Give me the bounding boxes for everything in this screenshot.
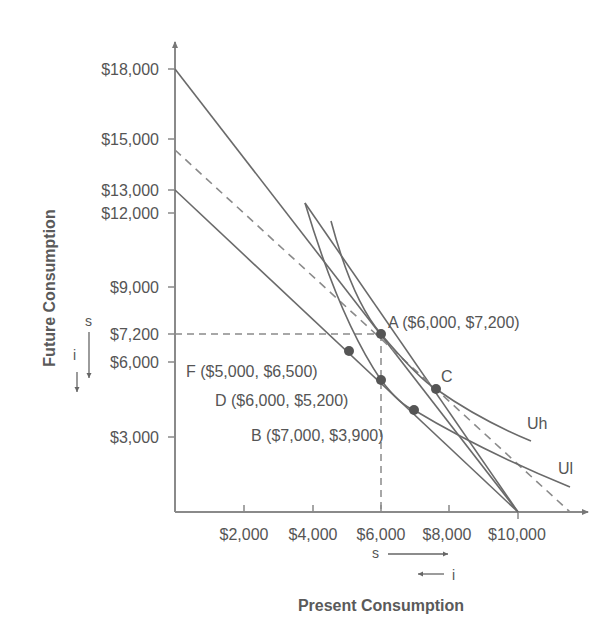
y-tick-label: $15,000	[101, 131, 159, 148]
y-tick-label: $7,200	[110, 326, 159, 343]
label-curve-uh: Uh	[527, 415, 547, 432]
budget-line-high	[175, 69, 518, 512]
budget-lines	[175, 69, 570, 512]
label-point-d: D ($6,000, $5,200)	[215, 392, 348, 409]
point-f	[344, 346, 354, 356]
y-tick-labels: $18,000 $15,000 $13,000 $12,000 $9,000 $…	[101, 61, 159, 446]
point-b	[409, 405, 419, 415]
y-axis-title: Future Consumption	[41, 209, 58, 366]
y-tick-label: $9,000	[110, 279, 159, 296]
steep-line-through-a	[305, 203, 518, 512]
x-arrow-i-label: i	[452, 567, 455, 583]
compensated-budget-line-dashed	[175, 150, 570, 512]
x-tick-label: $8,000	[423, 526, 472, 543]
guide-lines	[175, 334, 381, 512]
label-point-c: C	[441, 368, 453, 385]
intertemporal-consumption-chart: $18,000 $15,000 $13,000 $12,000 $9,000 $…	[0, 0, 612, 635]
y-arrow-i-label: i	[73, 347, 76, 363]
y-tick-label: $6,000	[110, 354, 159, 371]
x-axis-title: Present Consumption	[298, 597, 464, 614]
x-arrow-s-label: s	[372, 545, 379, 561]
label-point-f: F ($5,000, $6,500)	[186, 363, 318, 380]
label-point-a: A ($6,000, $7,200)	[388, 314, 520, 331]
curve-uh	[331, 221, 531, 441]
x-tick-label: $10,000	[488, 526, 546, 543]
x-tick-label: $4,000	[289, 526, 338, 543]
label-point-b: B ($7,000, $3,900)	[251, 427, 384, 444]
x-tick-labels: $2,000 $4,000 $6,000 $8,000 $10,000	[220, 526, 546, 543]
y-arrow-s-label: s	[85, 313, 92, 329]
x-axis-arrows: s i	[372, 545, 455, 583]
y-tick-label: $12,000	[101, 205, 159, 222]
label-curve-ul: Ul	[558, 460, 573, 477]
y-tick-label: $3,000	[110, 429, 159, 446]
y-axis-arrows: s i	[73, 313, 92, 392]
x-tick-label: $6,000	[357, 526, 406, 543]
indifference-curves	[305, 203, 570, 487]
y-tick-label: $18,000	[101, 61, 159, 78]
point-c	[431, 384, 441, 394]
y-tick-label: $13,000	[101, 182, 159, 199]
x-tick-label: $2,000	[220, 526, 269, 543]
y-ticks	[168, 69, 175, 437]
curve-ul	[305, 203, 570, 487]
point-a	[376, 329, 386, 339]
point-d	[376, 375, 386, 385]
